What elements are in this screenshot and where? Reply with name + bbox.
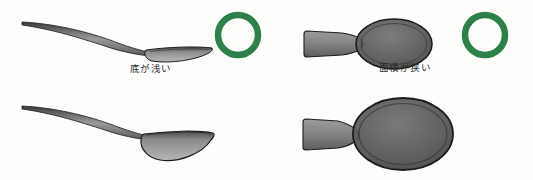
panel-wide-bowl-top-view: 面積が広い: [266, 90, 533, 180]
panel-deep-bowl-side-view: 底が深い: [0, 90, 266, 180]
spoon-handle-shape: [303, 119, 357, 150]
circle-icon: [212, 9, 264, 61]
spoon-wide-top-illustration: [266, 90, 533, 180]
spoon-bowl-shape: [141, 131, 214, 160]
spoon-handle-shape: [22, 22, 150, 56]
spoon-comparison-figure: 底が浅い: [0, 0, 533, 180]
panel-shallow-bowl-side-view: 底が浅い: [0, 0, 266, 90]
circle-icon: [459, 9, 511, 61]
spoon-handle-shape: [22, 106, 150, 140]
spoon-bowl-shape: [353, 98, 453, 170]
spoon-handle-shape: [304, 31, 361, 57]
panel-narrow-bowl-top-view: 面積が狭い: [266, 0, 533, 90]
panel-caption: 底が浅い: [130, 64, 172, 74]
panel-caption: 面積が狭い: [379, 63, 431, 73]
spoon-deep-side-illustration: [0, 90, 266, 180]
